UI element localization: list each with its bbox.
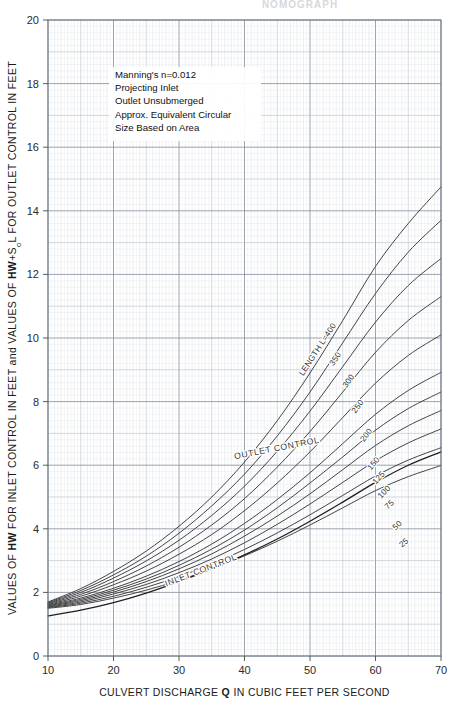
note-line: Size Based on Area [115,122,200,133]
note-line: Manning's n=0.012 [115,69,196,80]
x-axis-title: CULVERT DISCHARGE Q IN CUBIC FEET PER SE… [99,686,390,698]
x-tick-label: 70 [435,664,447,676]
y-tick-label: 4 [33,523,39,535]
y-tick-label: 0 [33,650,39,662]
x-tick-label: 30 [173,664,185,676]
x-axis-title-text: CULVERT DISCHARGE Q IN CUBIC FEET PER SE… [99,686,390,698]
x-tick-label: 10 [42,664,54,676]
y-tick-label: 18 [27,78,39,90]
x-tick-label: 50 [304,664,316,676]
y-tick-label: 16 [27,141,39,153]
y-tick-label: 20 [27,14,39,26]
y-tick-label: 14 [27,205,39,217]
y-tick-label: 6 [33,459,39,471]
y-tick-label: 10 [27,332,39,344]
note-line: Projecting Inlet [115,82,179,93]
y-tick-label: 8 [33,396,39,408]
x-tick-label: 20 [107,664,119,676]
note-box: Manning's n=0.012Projecting InletOutlet … [109,67,261,141]
plot-title: NOMOGRAPH [262,0,338,10]
culvert-nomograph-chart: NOMOGRAPH 10203040506070 024681012141618… [0,0,453,715]
x-tick-label: 40 [238,664,250,676]
y-tick-label: 2 [33,586,39,598]
x-tick-label: 60 [369,664,381,676]
note-line: Approx. Equivalent Circular [115,109,232,120]
y-tick-label: 12 [27,268,39,280]
chart-root: NOMOGRAPH 10203040506070 024681012141618… [0,0,453,715]
note-line: Outlet Unsubmerged [115,95,204,106]
